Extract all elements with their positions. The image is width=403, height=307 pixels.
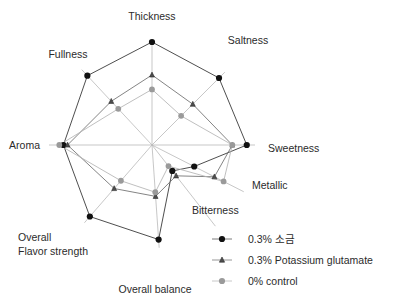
axis-label-thickness: Thickness [128, 10, 175, 22]
legend-marker-0 [219, 236, 225, 242]
axis-labels: ThicknessSaltnessSweetnessMetallicBitter… [9, 10, 319, 295]
legend-marker-2 [219, 278, 225, 284]
data-point-2-5 [152, 189, 158, 195]
radar-chart-canvas: ThicknessSaltnessSweetnessMetallicBitter… [0, 0, 403, 307]
series-polygon-1 [68, 75, 233, 196]
axis-label-flavor-strength: Flavor strength [18, 245, 88, 257]
radar-chart: ThicknessSaltnessSweetnessMetallicBitter… [0, 0, 403, 307]
series-polygon-2 [59, 89, 232, 192]
data-point-0-1 [216, 75, 222, 81]
axis-label-sweetness: Sweetness [268, 142, 319, 154]
data-point-0-6 [87, 213, 93, 219]
data-point-0-0 [149, 39, 155, 45]
data-point-2-3 [221, 179, 227, 185]
data-point-2-6 [118, 178, 124, 184]
data-point-2-8 [115, 106, 121, 112]
axis-spoke-overall [84, 145, 152, 223]
axis-label-bitterness: Bitterness [192, 204, 239, 216]
axis-label-fullness: Fullness [48, 48, 87, 60]
axis-label-metallic: Metallic [252, 179, 288, 191]
data-point-0-8 [84, 73, 90, 79]
data-point-2-0 [149, 86, 155, 92]
data-point-1-0 [150, 72, 155, 77]
legend-label-0: 0.3% 소금 [248, 233, 295, 245]
axis-label-aroma: Aroma [9, 139, 40, 151]
axis-label-overall-balance: Overall balance [119, 283, 192, 295]
data-point-2-4 [166, 163, 172, 169]
legend-label-2: 0% control [248, 275, 298, 287]
axis-label-saltness: Saltness [228, 34, 268, 46]
legend-label-1: 0.3% Potassium glutamate [248, 254, 373, 266]
data-point-0-4 [169, 168, 175, 174]
data-point-0-5 [156, 236, 162, 242]
chart-legend: 0.3% 소금0.3% Potassium glutamate0% contro… [212, 233, 373, 287]
data-point-2-7 [56, 142, 62, 148]
data-point-0-3 [191, 163, 197, 169]
data-point-2-1 [178, 113, 184, 119]
data-point-2-2 [229, 142, 235, 148]
data-point-0-2 [244, 142, 250, 148]
axis-label-overall: Overall [18, 231, 51, 243]
